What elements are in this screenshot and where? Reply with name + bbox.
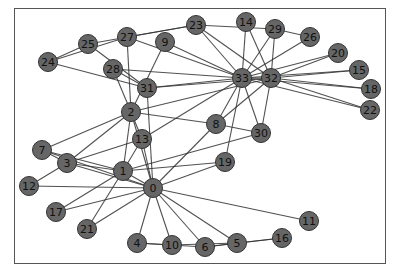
node-4: 4	[128, 234, 147, 253]
node-15: 15	[350, 61, 369, 80]
node-0: 0	[144, 179, 163, 198]
node-23: 23	[187, 16, 206, 35]
edge-0-19	[153, 162, 225, 188]
node-label: 3	[64, 157, 71, 170]
node-14: 14	[237, 13, 256, 32]
node-8: 8	[207, 115, 226, 134]
edge-layer	[29, 22, 371, 247]
node-21: 21	[78, 220, 97, 239]
node-13: 13	[133, 130, 152, 149]
edge-0-11	[153, 188, 309, 221]
node-label: 15	[352, 64, 366, 77]
node-label: 31	[140, 82, 154, 95]
edge-23-29	[196, 25, 275, 29]
network-graph: 0123456789101112131415161718192021222324…	[0, 0, 397, 276]
node-label: 9	[162, 36, 169, 49]
node-29: 29	[266, 20, 285, 39]
node-16: 16	[273, 229, 292, 248]
edge-0-8	[153, 124, 216, 188]
node-label: 1	[120, 165, 127, 178]
node-22: 22	[361, 101, 380, 120]
node-label: 32	[264, 72, 278, 85]
node-1: 1	[114, 162, 133, 181]
edge-3-13	[67, 139, 142, 163]
edge-1-21	[87, 171, 123, 229]
edge-2-7	[42, 112, 131, 150]
node-label: 8	[213, 118, 220, 131]
node-label: 30	[254, 127, 268, 140]
node-17: 17	[47, 203, 66, 222]
node-27: 27	[118, 28, 137, 47]
node-label: 28	[106, 63, 120, 76]
edge-22-32	[271, 78, 370, 110]
edge-9-33	[165, 42, 242, 78]
node-label: 27	[120, 31, 134, 44]
edge-0-2	[131, 112, 153, 188]
node-9: 9	[156, 33, 175, 52]
node-20: 20	[329, 44, 348, 63]
node-label: 33	[235, 72, 249, 85]
node-label: 0	[150, 182, 157, 195]
node-33: 33	[233, 69, 252, 88]
edge-2-8	[131, 112, 216, 124]
edge-24-31	[48, 62, 147, 88]
node-label: 7	[39, 144, 46, 157]
edge-0-12	[29, 186, 153, 188]
node-label: 11	[302, 215, 316, 228]
node-6: 6	[196, 238, 215, 257]
node-label: 25	[81, 38, 95, 51]
node-31: 31	[138, 79, 157, 98]
node-label: 19	[218, 156, 232, 169]
edge-0-5	[153, 188, 237, 243]
node-12: 12	[20, 177, 39, 196]
node-3: 3	[58, 154, 77, 173]
node-24: 24	[39, 53, 58, 72]
edge-0-7	[42, 150, 153, 188]
node-label: 18	[364, 83, 378, 96]
node-label: 4	[134, 237, 141, 250]
edge-22-33	[242, 78, 370, 110]
node-label: 17	[49, 206, 63, 219]
edge-2-3	[67, 112, 131, 163]
edge-19-33	[225, 78, 242, 162]
node-18: 18	[362, 80, 381, 99]
node-label: 10	[165, 239, 179, 252]
node-label: 20	[331, 47, 345, 60]
edge-15-33	[242, 70, 359, 78]
node-label: 21	[80, 223, 94, 236]
node-label: 14	[239, 16, 253, 29]
node-label: 2	[128, 106, 135, 119]
node-label: 6	[202, 241, 209, 254]
node-11: 11	[300, 212, 319, 231]
node-32: 32	[262, 69, 281, 88]
node-2: 2	[122, 103, 141, 122]
node-7: 7	[33, 141, 52, 160]
node-label: 16	[275, 232, 289, 245]
node-26: 26	[301, 28, 320, 47]
node-label: 23	[189, 19, 203, 32]
node-label: 22	[363, 104, 377, 117]
node-label: 29	[268, 23, 282, 36]
node-10: 10	[163, 236, 182, 255]
node-28: 28	[104, 60, 123, 79]
node-25: 25	[79, 35, 98, 54]
node-label: 24	[41, 56, 55, 69]
node-label: 26	[303, 31, 317, 44]
node-19: 19	[216, 153, 235, 172]
node-30: 30	[252, 124, 271, 143]
node-label: 13	[135, 133, 149, 146]
node-label: 5	[234, 237, 241, 250]
node-layer: 0123456789101112131415161718192021222324…	[20, 13, 381, 257]
node-5: 5	[228, 234, 247, 253]
node-label: 12	[22, 180, 36, 193]
edge-1-17	[56, 171, 123, 212]
